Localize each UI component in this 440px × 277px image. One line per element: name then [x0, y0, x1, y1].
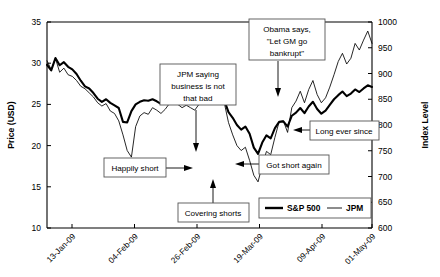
annotation-line-2: "Let GM go — [267, 37, 308, 46]
y-ticklabel-right: 750 — [378, 146, 392, 156]
y-axis-left-title: Price (USD) — [6, 101, 16, 148]
annotation-label: Happily short — [111, 164, 159, 173]
y-ticklabel-right: 800 — [378, 120, 392, 130]
annotation-line-3: that bad — [183, 94, 212, 103]
legend-label-jpm: JPM — [346, 203, 363, 213]
stock-chart: 101520253035 Price (USD) 600650700750800… — [0, 0, 440, 277]
chart-root: 101520253035 Price (USD) 600650700750800… — [0, 0, 440, 277]
annotation-label: Covering shorts — [185, 209, 242, 218]
y-ticklabel-right: 700 — [378, 172, 392, 182]
annotation-label: Got short again — [266, 161, 321, 170]
y-ticklabel-right: 1000 — [378, 17, 397, 27]
y-axis-right-title: Index Level — [420, 102, 430, 149]
annotation-line-2: business is not — [171, 82, 225, 91]
y-ticklabel-left: 35 — [32, 17, 42, 27]
y-ticklabel-right: 650 — [378, 197, 392, 207]
y-ticklabel-left: 25 — [32, 99, 42, 109]
legend[interactable]: S&P 500 JPM — [259, 198, 371, 218]
y-ticklabel-left: 10 — [32, 223, 42, 233]
annotation-label: Long ever since — [315, 127, 373, 136]
annotation-line-3: bankrupt" — [270, 49, 304, 58]
annotation-line-1: JPM saying — [177, 70, 219, 79]
y-ticklabel-right: 900 — [378, 69, 392, 79]
annotation-line-1: Obama says, — [263, 25, 311, 34]
y-ticklabel-left: 20 — [32, 141, 42, 151]
y-ticklabel-right: 850 — [378, 94, 392, 104]
y-ticklabel-right: 600 — [378, 223, 392, 233]
y-ticklabel-left: 30 — [32, 58, 42, 68]
y-ticklabel-left: 15 — [32, 182, 42, 192]
legend-label-sp500: S&P 500 — [287, 203, 321, 213]
y-ticklabel-right: 950 — [378, 43, 392, 53]
